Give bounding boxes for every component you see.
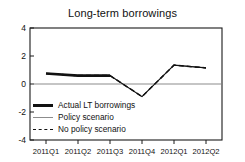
legend-swatch-solid-thick-icon <box>33 100 53 110</box>
y-tick-label-0: 0 <box>8 79 26 89</box>
y-tick-label-minus-4: -4 <box>8 135 26 145</box>
x-tick-label-2012q2: 2012Q2 <box>186 147 226 156</box>
legend-label-policy-scenario: Policy scenario <box>58 112 114 122</box>
legend-label-actual-lt-borrowings: Actual LT borrowings <box>58 100 135 110</box>
legend-item-actual-lt-borrowings: Actual LT borrowings <box>33 99 135 111</box>
legend-swatch-dashed-icon <box>33 124 53 134</box>
legend-item-policy-scenario: Policy scenario <box>33 111 135 123</box>
plot-area <box>0 0 245 162</box>
y-tick-label-minus-2: -2 <box>8 107 26 117</box>
y-tick-label-2: 2 <box>8 51 26 61</box>
x-tick-marks <box>46 140 206 144</box>
legend-item-no-policy-scenario: No policy scenario <box>33 123 135 135</box>
y-tick-label-4: 4 <box>8 23 26 33</box>
chart-figure: Long-term borrowings <box>0 0 245 162</box>
legend-label-no-policy-scenario: No policy scenario <box>58 124 126 134</box>
chart-legend: Actual LT borrowings Policy scenario No … <box>33 99 135 135</box>
legend-swatch-solid-thin-icon <box>33 112 53 122</box>
